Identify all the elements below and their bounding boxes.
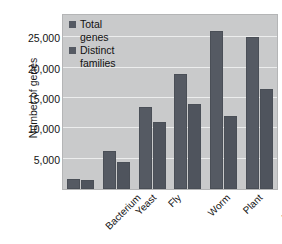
legend-label: Total genes <box>80 18 109 43</box>
bar-chart: Number of genes 5,00010,00015,00020,0002… <box>0 0 282 244</box>
bar-group <box>206 15 242 189</box>
y-axis-tick-labels: 5,00010,00015,00020,00025,000 <box>14 0 60 244</box>
legend-swatch-total-genes <box>69 21 76 28</box>
bar-group <box>170 15 206 189</box>
bar <box>117 162 130 189</box>
bar <box>153 122 166 189</box>
bar <box>67 179 80 189</box>
bar <box>260 89 273 189</box>
x-axis-tick-labels: BacteriumYeastFlyWormPlantHuman <box>62 190 278 244</box>
bar <box>103 151 116 189</box>
bar <box>174 74 187 189</box>
chart-legend: Total genesDistinct families <box>69 18 116 70</box>
plot-area: Total genesDistinct families <box>62 14 278 190</box>
bar <box>139 107 152 189</box>
legend-entry: Distinct families <box>69 44 116 69</box>
legend-swatch-distinct-families <box>69 47 76 54</box>
x-axis-tick-label: Plant <box>241 192 265 216</box>
y-axis-tick-label: 15,000 <box>16 94 60 104</box>
x-axis-tick-label: Worm <box>206 192 233 219</box>
bar <box>210 31 223 189</box>
bar <box>188 104 201 189</box>
x-axis-tick-label: Human <box>279 192 282 223</box>
bar-group <box>241 15 277 189</box>
bar <box>224 116 237 189</box>
y-axis-tick-label: 20,000 <box>16 64 60 74</box>
y-axis-tick-label: 10,000 <box>16 124 60 134</box>
legend-entry: Total genes <box>69 18 116 43</box>
bar <box>246 37 259 189</box>
y-axis-tick-label: 5,000 <box>16 155 60 165</box>
x-axis-tick-label: Fly <box>166 192 183 209</box>
bar <box>81 180 94 189</box>
y-axis-tick-label: 25,000 <box>16 33 60 43</box>
legend-label: Distinct families <box>80 44 116 69</box>
bar-group <box>134 15 170 189</box>
